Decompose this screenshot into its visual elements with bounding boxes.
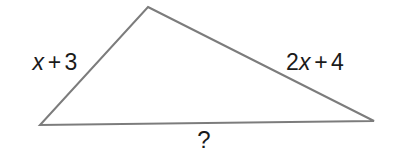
triangle-figure: x+3 2x+4 ?: [0, 0, 399, 155]
side-label-left: x+3: [33, 51, 78, 74]
right-coefficient: 2: [286, 49, 299, 75]
right-variable: x: [299, 49, 311, 75]
side-label-right: 2x+4: [286, 51, 344, 74]
left-constant: 3: [64, 49, 77, 75]
right-constant: 4: [331, 49, 344, 75]
side-label-base-unknown: ?: [197, 128, 211, 152]
right-operator: +: [311, 49, 331, 75]
left-operator: +: [45, 49, 65, 75]
left-variable: x: [33, 49, 45, 75]
